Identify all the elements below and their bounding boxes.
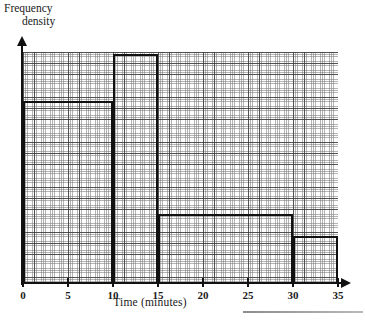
x-axis-tick	[337, 278, 339, 287]
x-axis-tick-label: 35	[323, 289, 353, 301]
x-axis-tick	[157, 278, 159, 287]
x-axis-tick	[22, 278, 24, 287]
histogram-bar	[158, 214, 293, 283]
x-axis-tick	[292, 278, 294, 287]
x-axis-tick	[67, 278, 69, 287]
histogram-bar	[113, 54, 158, 283]
x-axis-arrow-icon	[341, 278, 351, 288]
y-axis-line	[21, 44, 23, 285]
y-axis-label-line2: density	[4, 15, 124, 28]
y-axis-label-line1: Frequency	[4, 2, 53, 14]
x-axis-tick	[247, 278, 249, 287]
y-axis-label: Frequency density	[4, 2, 124, 28]
histogram-bar	[293, 236, 338, 283]
x-axis-line	[23, 282, 343, 284]
footer-rule	[243, 311, 363, 313]
y-axis-arrow-icon	[17, 36, 27, 46]
x-axis-label: Time (minutes)	[0, 296, 300, 308]
histogram-bar	[23, 101, 113, 283]
x-axis-tick	[202, 278, 204, 287]
x-axis-tick	[112, 278, 114, 287]
plot-area	[23, 52, 338, 283]
histogram-figure: Frequency density 05101520253035 Time (m…	[0, 0, 365, 321]
